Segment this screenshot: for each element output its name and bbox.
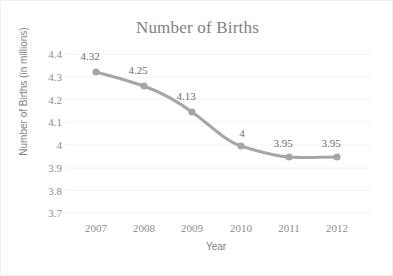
data-point-label: 3.95 [263, 137, 303, 149]
data-point-label: 3.95 [311, 137, 351, 149]
chart-container: Number of Births Number of Births (in mi… [0, 0, 393, 276]
data-point-label: 4.13 [166, 90, 206, 102]
data-point-label: 4.25 [118, 64, 158, 76]
data-point-label: 4.32 [70, 50, 110, 62]
data-point-label: 4 [222, 127, 262, 139]
